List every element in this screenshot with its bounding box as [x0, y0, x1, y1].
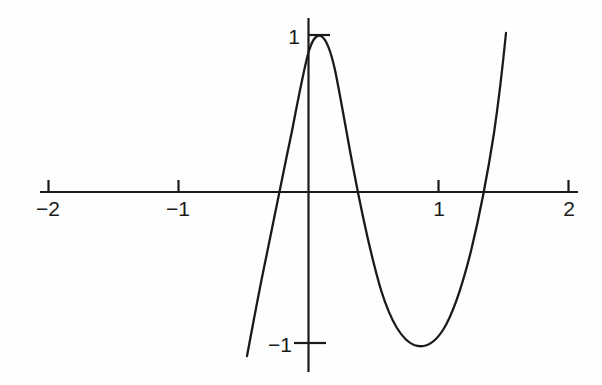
- y-tick-label-1: 1: [288, 26, 300, 47]
- cubic-curve: [247, 33, 506, 356]
- y-tick-label-minus1: −1: [268, 334, 292, 355]
- x-tick-label-2: 2: [563, 198, 575, 219]
- x-tick-label-1: 1: [433, 198, 445, 219]
- x-tick-label-minus2: −2: [36, 198, 60, 219]
- x-tick-label-minus1: −1: [166, 198, 190, 219]
- chart-figure: −2 −1 1 2 1 −1: [0, 0, 602, 385]
- plot-canvas: [0, 0, 602, 385]
